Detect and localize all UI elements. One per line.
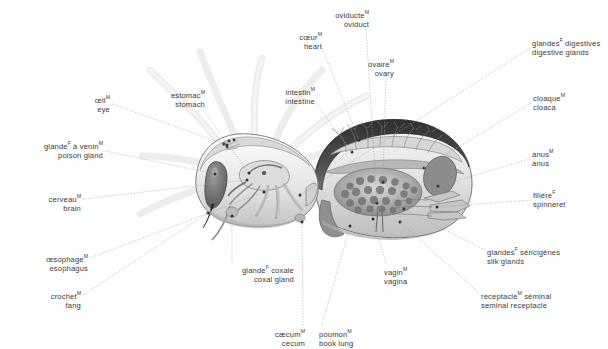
gender-marker: M	[99, 140, 103, 146]
label-en-silk-glands: silk glands	[487, 257, 560, 266]
gender-marker: M	[311, 86, 315, 92]
label-en-fang: fang	[0, 301, 81, 310]
label-silk-glands: glandesF séricigènessilk glands	[487, 245, 560, 266]
label-fr-tail-seminal-receptacle: séminal	[522, 292, 552, 301]
label-fr-intestine: intestinM	[0, 85, 315, 97]
label-anus: anusManus	[532, 147, 553, 168]
label-digestive-glands: glandesF digestivesdigestive glands	[532, 36, 600, 57]
label-poison-gland: glandeF à veninMpoison gland	[0, 139, 103, 160]
gender-marker: M	[318, 31, 322, 37]
gender-marker: M	[549, 148, 553, 154]
label-fr-seminal-receptacle: réceptacleM séminal	[481, 289, 551, 301]
label-en-digestive-glands: digestive glands	[532, 48, 600, 57]
label-fr-oviduct: oviducteM	[0, 8, 369, 20]
label-en-intestine: intestine	[0, 97, 315, 106]
label-en-poison-gland: poison gland	[0, 151, 103, 160]
label-heart: cœurMheart	[0, 30, 322, 51]
gender-marker: M	[365, 9, 369, 15]
label-brain: cerveauMbrain	[0, 192, 81, 213]
label-cecum: cæcumMcecum	[0, 327, 305, 348]
label-fr-brain: cerveauM	[0, 192, 81, 204]
label-fang: crochetMfang	[0, 289, 81, 310]
label-fr-fang: crochetM	[0, 289, 81, 301]
label-fr-tail-coxal-gland: coxale	[269, 266, 294, 275]
label-fr-heart: cœurM	[0, 30, 322, 42]
label-layer: œilMeyeglandeF à veninMpoison glandcerve…	[0, 0, 608, 349]
gender-marker: M	[561, 92, 565, 98]
gender-marker: M	[84, 253, 88, 259]
label-fr-tail-digestive-glands: digestives	[563, 39, 601, 48]
label-spinneret: filièreFspinneret	[533, 188, 566, 209]
label-en-seminal-receptacle: seminal receptacle	[481, 301, 551, 310]
label-fr-silk-glands: glandesF séricigènes	[487, 245, 560, 257]
label-fr-book-lung: poumonM	[319, 327, 353, 339]
label-en-heart: heart	[0, 42, 322, 51]
gender-marker: M	[403, 266, 407, 272]
label-fr-cecum: cæcumM	[0, 327, 305, 339]
label-coxal-gland: glandeF coxalecoxal gland	[0, 263, 294, 284]
label-intestine: intestinMintestine	[0, 85, 315, 106]
label-book-lung: poumonMbook lung	[319, 327, 353, 348]
label-en-cecum: cecum	[0, 339, 305, 348]
label-fr-spinneret: filièreF	[533, 188, 566, 200]
label-en-spinneret: spinneret	[533, 200, 566, 209]
label-vagina: vaginMvagina	[384, 265, 407, 286]
label-fr-ovary: ovaireM	[0, 57, 394, 69]
label-fr-anus: anusM	[532, 147, 553, 159]
label-en-oviduct: oviduct	[0, 20, 369, 29]
gender-marker: M	[301, 328, 305, 334]
gender-marker: F	[552, 189, 555, 195]
label-en-cloaca: cloaca	[533, 103, 565, 112]
label-fr-vagina: vaginM	[384, 265, 407, 277]
label-en-vagina: vagina	[384, 277, 407, 286]
label-fr-cloaca: cloaqueM	[533, 91, 565, 103]
label-fr-poison-gland: glandeF à veninM	[0, 139, 103, 151]
label-fr-tail-silk-glands: séricigènes	[518, 248, 560, 257]
label-en-book-lung: book lung	[319, 339, 353, 348]
gender-marker: M	[347, 328, 351, 334]
gender-marker: M	[77, 290, 81, 296]
gender-marker: M	[77, 193, 81, 199]
label-fr-coxal-gland: glandeF coxale	[0, 263, 294, 275]
label-en-ovary: ovary	[0, 69, 394, 78]
label-oviduct: oviducteMoviduct	[0, 8, 369, 29]
label-en-coxal-gland: coxal gland	[0, 275, 294, 284]
label-seminal-receptacle: réceptacleM séminalseminal receptacle	[481, 289, 551, 310]
gender-marker: M	[390, 58, 394, 64]
label-fr-tail-poison-gland: à venin	[71, 142, 99, 151]
label-en-anus: anus	[532, 159, 553, 168]
spider-anatomy-diagram: œilMeyeglandeF à veninMpoison glandcerve…	[0, 0, 608, 349]
label-en-brain: brain	[0, 204, 81, 213]
label-fr-digestive-glands: glandesF digestives	[532, 36, 600, 48]
label-ovary: ovaireMovary	[0, 57, 394, 78]
label-cloaca: cloaqueMcloaca	[533, 91, 565, 112]
